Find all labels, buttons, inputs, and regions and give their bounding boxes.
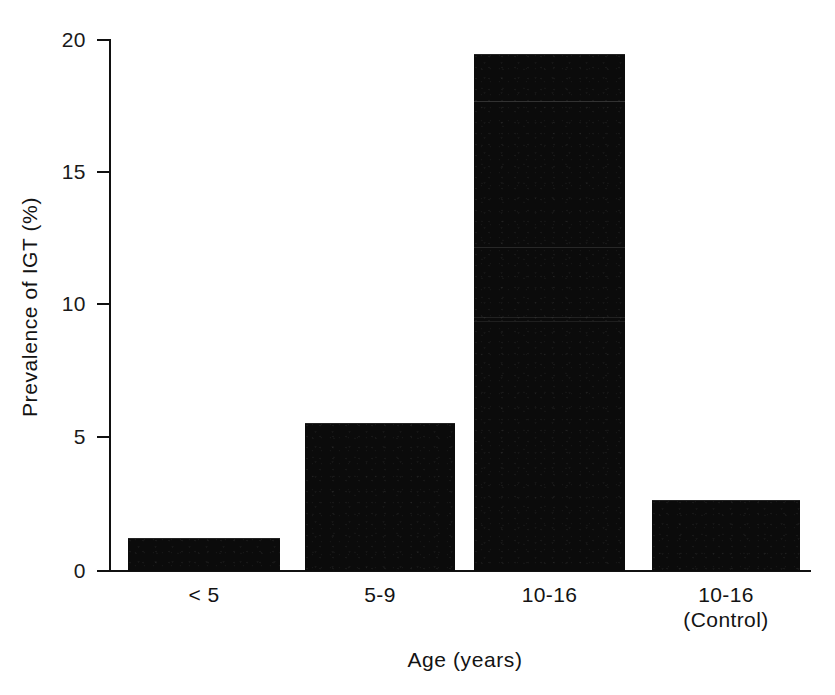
bar-age-5-9 (305, 423, 455, 571)
bar-age-under-5 (128, 538, 280, 571)
y-tick-mark-15 (97, 171, 110, 173)
y-tick-mark-5 (97, 436, 110, 438)
y-tick-label-20: 20 (40, 29, 86, 50)
x-category-label-10-16-control: 10-16 (Control) (647, 582, 805, 632)
scan-artifact (474, 247, 625, 248)
y-tick-mark-10 (97, 303, 110, 305)
y-axis-title: Prevalence of IGT (%) (18, 147, 42, 467)
scan-artifact (474, 101, 625, 102)
y-tick-label-0: 0 (40, 560, 86, 581)
scan-artifact (474, 317, 625, 318)
y-tick-label-5: 5 (40, 426, 86, 447)
bar-age-10-16 (474, 54, 625, 571)
plot-area (110, 40, 810, 571)
scan-artifact (474, 321, 625, 322)
y-tick-label-15: 15 (40, 161, 86, 182)
y-tick-mark-20 (97, 39, 110, 41)
y-tick-label-10: 10 (40, 293, 86, 314)
bar-age-10-16-control (652, 500, 800, 571)
bar-chart-figure: 20 15 10 5 0 < 5 5-9 10-16 10-16 (Contro… (0, 0, 835, 695)
x-category-label-under-5: < 5 (128, 582, 280, 607)
x-category-label-10-16: 10-16 (474, 582, 625, 607)
x-category-label-5-9: 5-9 (305, 582, 455, 607)
y-tick-mark-0 (97, 570, 110, 572)
x-axis-title: Age (years) (0, 648, 835, 672)
